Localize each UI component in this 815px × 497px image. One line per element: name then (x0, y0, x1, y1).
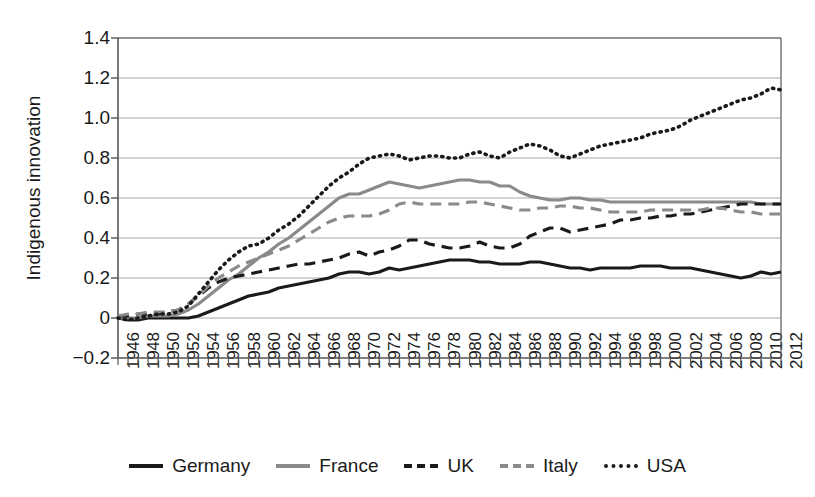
legend-label: USA (647, 455, 686, 477)
legend-label: Germany (172, 455, 250, 477)
legend-label: UK (447, 455, 473, 477)
solid-gray-line-icon (276, 464, 310, 468)
chart-figure: Indigenous innovation 1.41.21.00.80.60.4… (0, 0, 815, 497)
legend-label: France (319, 455, 378, 477)
dashed-gray-line-icon (500, 464, 534, 468)
legend-item-france[interactable]: France (276, 455, 378, 477)
legend-item-uk[interactable]: UK (404, 455, 473, 477)
legend-label: Italy (543, 455, 578, 477)
legend-item-italy[interactable]: Italy (500, 455, 578, 477)
solid-dark-line-icon (129, 464, 163, 468)
dashed-dark-line-icon (404, 464, 438, 468)
legend-item-usa[interactable]: USA (604, 455, 686, 477)
chart-legend: GermanyFranceUKItalyUSA (0, 455, 815, 477)
plot-area (0, 0, 815, 497)
legend-item-germany[interactable]: Germany (129, 455, 250, 477)
dotted-dark-line-icon (604, 464, 638, 468)
